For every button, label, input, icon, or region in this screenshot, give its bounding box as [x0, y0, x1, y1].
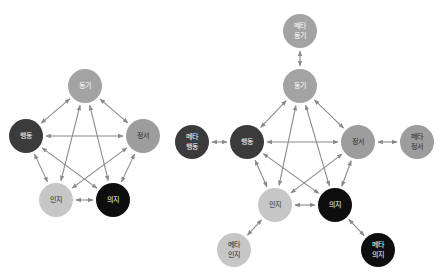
bidirectional-arrow-behavior-cognition [34, 154, 47, 182]
bidirectional-arrow-motivation-cognition [279, 106, 296, 186]
node-label: 행동 [20, 131, 32, 141]
diagram-canvas: 동기행동정서인지의지 메타 동기동기행동메타 행동정서메타 정서인지의지메타 인… [0, 0, 446, 278]
bidirectional-arrow-motivation-behavior [261, 101, 287, 128]
bidirectional-arrow-motivation-emotion [314, 100, 343, 128]
node-meta-cognition: 메타 인지 [217, 233, 251, 267]
node-meta-motivation: 메타 동기 [283, 14, 317, 48]
bidirectional-arrow-emotion-cognition [72, 148, 127, 188]
node-label: 메타 의지 [372, 240, 384, 260]
node-label: 인지 [50, 195, 62, 205]
bidirectional-arrow-motivation-volition [306, 105, 330, 186]
node-label: 메타 정서 [411, 132, 423, 152]
node-behavior: 행동 [230, 125, 264, 159]
bidirectional-arrow-motivation-behavior [41, 99, 69, 123]
node-emotion: 정서 [341, 125, 375, 159]
node-meta-volition: 메타 의지 [361, 233, 395, 267]
bidirectional-arrow-volition-meta-volition [349, 219, 364, 235]
node-label: 행동 [241, 137, 253, 147]
node-label: 의지 [107, 195, 119, 205]
node-cognition: 인지 [258, 188, 292, 222]
node-meta-behavior: 메타 행동 [175, 125, 209, 159]
bidirectional-arrow-behavior-volition [42, 148, 97, 188]
node-behavior: 행동 [9, 119, 43, 153]
node-label: 동기 [294, 81, 306, 91]
bidirectional-arrow-emotion-volition [121, 154, 134, 182]
node-label: 메타 행동 [186, 132, 198, 152]
bidirectional-arrow-cognition-meta-cognition [247, 220, 261, 235]
bidirectional-arrow-behavior-cognition [255, 160, 267, 186]
node-label: 인지 [269, 200, 281, 210]
bidirectional-arrow-emotion-volition [342, 161, 351, 186]
node-label: 정서 [137, 131, 149, 141]
node-label: 메타 인지 [228, 240, 240, 260]
node-label: 메타 동기 [294, 21, 306, 41]
node-meta-emotion: 메타 정서 [400, 125, 434, 159]
node-motivation: 동기 [68, 69, 102, 103]
node-volition: 의지 [318, 188, 352, 222]
node-volition: 의지 [96, 183, 130, 217]
bidirectional-arrow-motivation-volition [90, 105, 108, 180]
node-cognition: 인지 [39, 183, 73, 217]
node-motivation: 동기 [283, 69, 317, 103]
bidirectional-arrow-motivation-emotion [100, 99, 128, 123]
node-emotion: 정서 [126, 119, 160, 153]
node-label: 의지 [329, 200, 341, 210]
node-label: 동기 [79, 81, 91, 91]
node-label: 정서 [352, 137, 364, 147]
